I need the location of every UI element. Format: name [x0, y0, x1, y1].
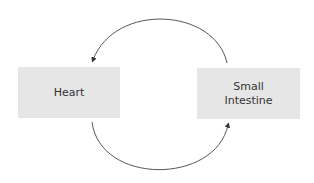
small-intestine-label: Small Intestine	[224, 80, 272, 108]
small-intestine-label-line2: Intestine	[224, 94, 272, 107]
heart-label: Heart	[54, 86, 85, 100]
small-intestine-label-line1: Small	[233, 80, 264, 93]
arrow-heart-to-small-intestine	[92, 122, 228, 170]
arrow-small-intestine-to-heart	[93, 19, 227, 63]
small-intestine-node: Small Intestine	[197, 68, 300, 119]
heart-node: Heart	[18, 67, 120, 118]
